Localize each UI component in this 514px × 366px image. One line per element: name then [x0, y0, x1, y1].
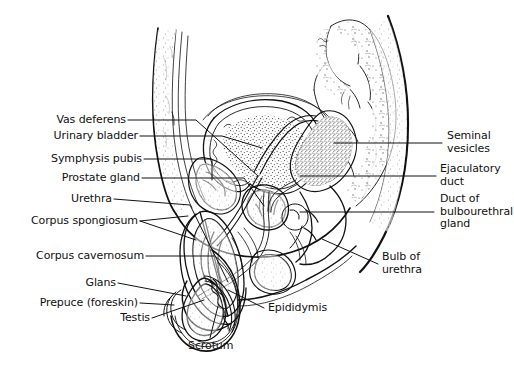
label-seminal-vesicles: Seminalvesicles: [447, 130, 491, 155]
label-bulb-of-urethra-line1: Bulb of: [382, 250, 420, 263]
label-corpus-spongiosum: Corpus spongiosum: [0, 215, 138, 228]
abdominal-wall-texture: [153, 30, 190, 213]
label-bulbourethral-line1: Duct of: [440, 192, 479, 205]
label-bulbourethral-line3: gland: [440, 217, 470, 230]
leader-glans: [118, 283, 186, 296]
rectum: [296, 186, 346, 265]
label-ejaculatory-duct-line1: Ejaculatory: [440, 162, 501, 175]
label-seminal-vesicles-line1: Seminal: [447, 129, 491, 142]
label-bulb-of-urethra-line2: urethra: [382, 263, 422, 276]
leader-bulb-of-urethra: [322, 239, 378, 264]
label-prepuce: Prepuce (foreskin): [0, 297, 138, 310]
label-epididymis: Epididymis: [268, 302, 327, 315]
leader-prepuce: [140, 303, 174, 305]
label-corpus-cavernosum: Corpus cavernosum: [0, 250, 144, 263]
label-glans: Glans: [0, 277, 116, 290]
label-urinary-bladder: Urinary bladder: [0, 130, 138, 143]
label-ejaculatory-duct: Ejaculatoryduct: [440, 163, 501, 188]
label-vas-deferens: Vas deferens: [0, 114, 126, 127]
label-bulbourethral-gland: Duct ofbulbourethralgland: [440, 193, 513, 231]
label-urethra: Urethra: [0, 193, 112, 206]
label-testis: Testis: [0, 312, 150, 325]
symphysis-texture: [195, 163, 237, 211]
bulb-of-urethra-texture: [253, 254, 291, 290]
label-scrotum: Scrotum: [188, 340, 233, 353]
label-ejaculatory-duct-line2: duct: [440, 175, 464, 188]
label-prostate-gland: Prostate gland: [0, 172, 140, 185]
label-bulbourethral-line2: bulbourethral: [440, 205, 513, 218]
label-symphysis-pubis: Symphysis pubis: [0, 153, 142, 166]
leader-corpus-spongiosum-a: [140, 216, 188, 221]
label-seminal-vesicles-line2: vesicles: [447, 142, 490, 155]
label-bulb-of-urethra: Bulb ofurethra: [382, 251, 422, 276]
anatomical-figure: Vas deferens Urinary bladder Symphysis p…: [0, 0, 514, 366]
